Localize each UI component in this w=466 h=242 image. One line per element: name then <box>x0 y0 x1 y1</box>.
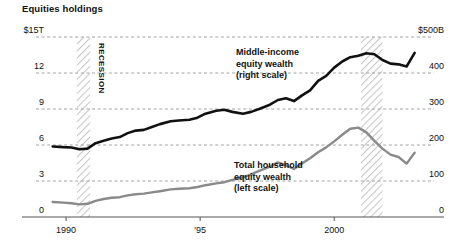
recession-label: RECESSION <box>97 43 106 94</box>
equities-holdings-chart: Equities holdings 036912$15T010020030040… <box>0 0 466 242</box>
x-tick-1: '95 <box>194 225 206 235</box>
x-tick-0: 1990 <box>56 225 76 235</box>
annotation-middle-income: Middle-income equity wealth (right scale… <box>236 47 299 82</box>
right-tick-1: 100 <box>429 169 444 179</box>
right-tick-2: 200 <box>429 133 444 143</box>
axis-lines <box>22 217 444 221</box>
recession-label-text: RECESSION <box>97 43 106 94</box>
left-tick-2: 6 <box>39 133 44 143</box>
recession-shading <box>77 37 383 217</box>
x-tick-2: 2000 <box>324 225 344 235</box>
right-tick-5: $500B <box>418 25 444 35</box>
right-tick-0: 0 <box>439 205 444 215</box>
recession-band-0 <box>77 37 90 217</box>
left-tick-5: $15T <box>23 25 44 35</box>
right-tick-4: 400 <box>429 61 444 71</box>
left-tick-4: 12 <box>34 61 44 71</box>
recession-band-1 <box>361 37 382 217</box>
right-tick-3: 300 <box>429 97 444 107</box>
chart-plot-area: 036912$15T0100200300400$500B1990'952000 … <box>0 0 466 242</box>
annotation-total-household: Total household equity wealth (left scal… <box>234 160 303 195</box>
left-tick-0: 0 <box>39 205 44 215</box>
left-tick-1: 3 <box>39 169 44 179</box>
left-tick-3: 9 <box>39 97 44 107</box>
